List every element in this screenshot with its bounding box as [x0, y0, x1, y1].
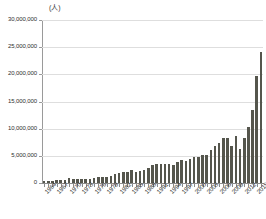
x-tick-mark — [248, 184, 249, 187]
x-tick-mark — [115, 184, 116, 187]
bar — [251, 110, 254, 183]
x-tick-mark — [232, 184, 233, 187]
x-tick-mark — [132, 184, 133, 187]
bar — [168, 164, 171, 183]
x-tick-mark — [190, 184, 191, 187]
x-tick-mark — [57, 184, 58, 187]
x-tick-mark — [261, 184, 262, 187]
x-tick-mark — [77, 184, 78, 187]
bar — [160, 164, 163, 183]
x-tick-mark — [253, 184, 254, 187]
bar — [247, 127, 250, 183]
y-tick-mark — [39, 20, 42, 21]
x-tick-mark — [207, 184, 208, 187]
y-tick-label: 30,000,000 — [0, 16, 37, 22]
bar — [210, 150, 213, 183]
x-tick-mark — [119, 184, 120, 187]
bar — [235, 136, 238, 183]
bar — [260, 52, 263, 183]
y-tick-mark — [39, 156, 42, 157]
x-tick-mark — [107, 184, 108, 187]
x-tick-mark — [90, 184, 91, 187]
bar — [84, 179, 87, 183]
bar — [55, 180, 58, 183]
x-tick-mark — [157, 184, 158, 187]
y-axis-unit-label: (人) — [49, 2, 61, 12]
x-tick-mark — [203, 184, 204, 187]
x-tick-mark — [257, 184, 258, 187]
bar — [105, 177, 108, 183]
bar — [130, 170, 133, 183]
bar — [193, 157, 196, 183]
x-tick-mark — [161, 184, 162, 187]
x-tick-mark — [148, 184, 149, 187]
x-tick-mark — [144, 184, 145, 187]
x-tick-mark — [223, 184, 224, 187]
x-tick-mark — [240, 184, 241, 187]
x-tick-mark — [165, 184, 166, 187]
x-tick-mark — [65, 184, 66, 187]
bar — [68, 178, 71, 183]
x-tick-mark — [127, 184, 128, 187]
bar — [197, 157, 200, 183]
x-tick-mark — [102, 184, 103, 187]
x-tick-mark — [94, 184, 95, 187]
x-tick-mark — [44, 184, 45, 187]
bar — [147, 168, 150, 183]
bar — [59, 180, 62, 183]
bar — [110, 176, 113, 183]
x-tick-mark — [244, 184, 245, 187]
x-tick-mark — [153, 184, 154, 187]
bar — [189, 159, 192, 183]
bar — [226, 138, 229, 183]
bar — [135, 172, 138, 183]
bar — [155, 164, 158, 183]
bar — [164, 164, 167, 183]
bar — [114, 174, 117, 183]
bar — [80, 179, 83, 183]
bar — [214, 146, 217, 183]
y-tick-label: 25,000,000 — [0, 43, 37, 49]
bar — [218, 143, 221, 183]
bar — [205, 155, 208, 183]
x-tick-mark — [182, 184, 183, 187]
bars-layer — [42, 20, 263, 183]
bar-chart: (人) 30,000,00025,000,00020,000,00015,000… — [0, 0, 266, 219]
x-tick-mark — [48, 184, 49, 187]
bar — [172, 165, 175, 183]
bar — [122, 172, 125, 183]
bar — [255, 76, 258, 183]
x-tick-mark — [228, 184, 229, 187]
x-tick-mark — [136, 184, 137, 187]
bar — [126, 172, 129, 183]
x-tick-mark — [236, 184, 237, 187]
x-tick-mark — [178, 184, 179, 187]
bar — [139, 171, 142, 183]
x-tick-mark — [194, 184, 195, 187]
x-tick-mark — [198, 184, 199, 187]
y-tick-mark — [39, 102, 42, 103]
x-tick-mark — [82, 184, 83, 187]
bar — [201, 155, 204, 183]
bar — [72, 179, 75, 183]
x-tick-mark — [173, 184, 174, 187]
bar — [89, 179, 92, 183]
x-tick-mark — [69, 184, 70, 187]
x-tick-mark — [98, 184, 99, 187]
x-tick-mark — [61, 184, 62, 187]
bar — [101, 177, 104, 183]
x-tick-mark — [123, 184, 124, 187]
bar — [64, 180, 67, 183]
bar — [118, 173, 121, 183]
x-axis-ticks — [42, 184, 264, 188]
x-tick-mark — [86, 184, 87, 187]
bar — [143, 170, 146, 183]
bar — [180, 160, 183, 183]
x-tick-mark — [111, 184, 112, 187]
plot-area — [42, 20, 263, 183]
bar — [230, 146, 233, 183]
bar — [93, 178, 96, 183]
bar — [185, 161, 188, 183]
x-tick-mark — [52, 184, 53, 187]
x-tick-mark — [140, 184, 141, 187]
